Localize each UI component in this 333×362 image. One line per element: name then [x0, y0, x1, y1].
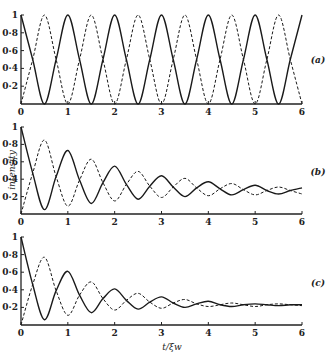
y-axis-title: intensity: [7, 149, 17, 190]
y-tick-label: 0·2: [2, 192, 18, 202]
dashed-series-line: [21, 257, 302, 325]
x-tick-label: 4: [205, 328, 211, 338]
solid-series-line: [21, 237, 302, 320]
x-tick-label: 4: [205, 217, 211, 227]
y-tick-label: 0·4: [2, 63, 18, 73]
y-tick-label: 1: [12, 10, 18, 20]
x-tick-label: 3: [158, 107, 164, 117]
x-axis-title: t/ξw: [162, 342, 182, 352]
panel-label: (c): [311, 278, 325, 288]
y-tick-label: 0·2: [2, 302, 18, 312]
x-tick-label: 3: [158, 328, 164, 338]
x-tick-label: 5: [252, 107, 258, 117]
y-tick-label: 0·8: [2, 139, 18, 149]
panel-label: (b): [311, 167, 326, 177]
x-tick-label: 2: [112, 328, 118, 338]
y-tick-label: 0·6: [2, 267, 18, 277]
x-tick-label: 3: [158, 217, 164, 227]
panel-label: (a): [311, 55, 325, 65]
figure: 01234560·20·40·60·81(a) 01234560·20·40·6…: [0, 0, 333, 362]
panel-c: 01234560·20·40·60·81(c): [2, 232, 325, 338]
x-tick-label: 4: [205, 107, 211, 117]
panel-a: 01234560·20·40·60·81(a): [2, 10, 325, 117]
x-tick-label: 0: [18, 107, 24, 117]
dashed-series-line: [21, 140, 302, 214]
y-tick-label: 0·8: [2, 28, 18, 38]
y-tick-label: 1: [12, 232, 18, 242]
x-tick-label: 2: [112, 217, 118, 227]
x-tick-label: 5: [252, 328, 258, 338]
x-tick-label: 2: [112, 107, 118, 117]
y-tick-label: 1: [12, 122, 18, 132]
x-tick-label: 1: [65, 328, 71, 338]
x-tick-label: 6: [299, 328, 305, 338]
x-tick-label: 6: [299, 217, 305, 227]
intensity-chart: 01234560·20·40·60·81(a) 01234560·20·40·6…: [0, 0, 333, 362]
x-tick-label: 6: [299, 107, 305, 117]
y-tick-label: 0·6: [2, 46, 18, 56]
x-tick-label: 5: [252, 217, 258, 227]
x-tick-label: 1: [65, 217, 71, 227]
x-tick-label: 0: [18, 217, 24, 227]
y-tick-label: 0·4: [2, 285, 18, 295]
y-tick-label: 0·8: [2, 250, 18, 260]
y-tick-label: 0·2: [2, 81, 18, 91]
panel-b: 01234560·20·40·60·81(b): [2, 122, 325, 227]
x-tick-label: 1: [65, 107, 71, 117]
x-tick-label: 0: [18, 328, 24, 338]
